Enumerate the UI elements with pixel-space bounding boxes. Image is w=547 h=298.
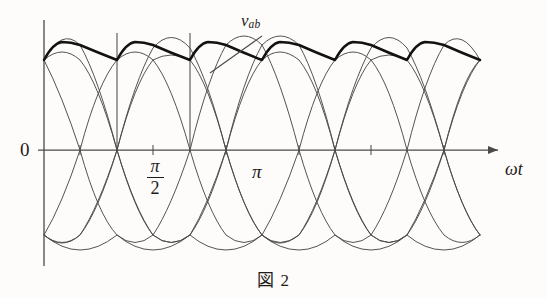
vab-leader-line: [210, 36, 262, 73]
x-axis-group: [38, 145, 498, 155]
figure-caption: 図 2: [0, 266, 547, 291]
curve-label-vab: vab: [241, 12, 261, 31]
curve-label-vab-main: v: [241, 11, 249, 30]
pi-over-two-denominator: 2: [140, 179, 170, 198]
axis-label-origin: 0: [20, 140, 30, 159]
thin-waveform-group: [44, 36, 480, 250]
lower-envelope-curve: [44, 235, 480, 250]
sine-curve-d: [44, 52, 480, 243]
axis-label-pi: π: [252, 162, 262, 181]
sine-curve-e: [44, 52, 480, 243]
waveform-plot: [0, 0, 547, 298]
axis-label-pi-over-two: π 2: [140, 157, 170, 198]
figure-container: 0 π 2 π ωt vab 図 2: [0, 0, 547, 298]
axis-label-omega-t: ωt: [505, 160, 523, 178]
sine-curve-c: [44, 38, 480, 243]
x-axis-arrowhead: [488, 146, 498, 154]
curve-label-vab-subscript: ab: [249, 18, 261, 30]
vertical-marker-group: [117, 33, 190, 151]
pi-over-two-numerator: π: [140, 157, 170, 176]
sine-curve-a: [44, 36, 480, 243]
sine-curve-f: [44, 55, 480, 243]
sine-curve-b: [44, 36, 480, 243]
